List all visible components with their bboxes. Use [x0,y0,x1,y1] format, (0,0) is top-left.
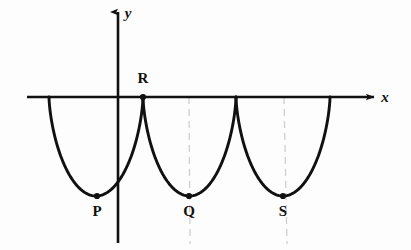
point-label-p: P [92,203,101,219]
axes-group [27,12,374,243]
y-axis-label: y [123,5,132,21]
figure-container: P R Q S x y [0,0,411,250]
point-label-s: S [279,203,287,219]
point-marker-s [280,193,286,199]
point-marker-p [94,193,100,199]
point-marker-q [186,193,192,199]
axis-labels-group: x y [123,5,390,105]
point-label-r: R [138,70,149,86]
cycloid-arch-1 [49,97,143,196]
cycloid-arch-3 [236,97,330,196]
point-label-q: Q [183,203,195,219]
guide-line-q [189,97,190,244]
point-marker-r [140,94,146,100]
x-axis-label: x [380,89,389,105]
guide-line-s [284,97,287,244]
graph-canvas: P R Q S x y [0,0,411,250]
